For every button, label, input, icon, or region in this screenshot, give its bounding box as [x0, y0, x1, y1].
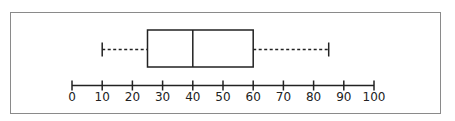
tick-label: 30: [155, 90, 170, 104]
tick-label: 90: [336, 90, 351, 104]
tick-label: 10: [95, 90, 110, 104]
tick-label: 40: [185, 90, 200, 104]
tick-label: 50: [215, 90, 230, 104]
iqr-box: [148, 30, 254, 67]
tick-label: 100: [363, 90, 386, 104]
box-plot: 0102030405060708090100: [0, 0, 455, 121]
tick-label: 60: [246, 90, 261, 104]
box-plot-body: [102, 30, 329, 67]
tick-label: 20: [125, 90, 140, 104]
tick-label: 0: [68, 90, 76, 104]
tick-label: 80: [306, 90, 321, 104]
x-axis: 0102030405060708090100: [68, 81, 385, 105]
tick-label: 70: [276, 90, 291, 104]
